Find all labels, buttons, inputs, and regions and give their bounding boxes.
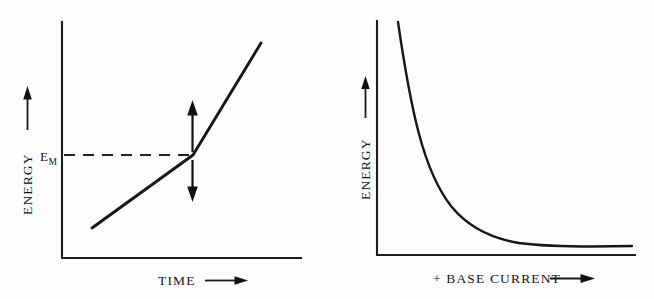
x-axis-title-base-current: + BASE CURRENT [433, 271, 561, 286]
data-curve-energy-decay [398, 22, 632, 247]
x-axis-title-arrow-head [581, 274, 596, 283]
y-axis-title-energy: ENERGY [358, 138, 373, 200]
y-axis-title-arrow-head [361, 76, 369, 89]
up-spread-arrow-head [187, 100, 198, 116]
energy-vs-time-plot: E M ENERGY TIME [0, 0, 327, 299]
y-axis-title-arrow-up-icon [23, 86, 32, 130]
data-line-energy [92, 43, 261, 228]
y-tick-label-em-subscript: M [49, 157, 58, 167]
x-axis-title-arrow-right-icon [205, 276, 248, 285]
up-spread-arrow [187, 100, 198, 152]
y-axis-title-arrow-head [23, 86, 32, 100]
x-axis-title-time: TIME [158, 273, 196, 288]
chart-panel-energy-vs-base-current: ENERGY + BASE CURRENT [327, 0, 654, 299]
energy-vs-base-current-plot: ENERGY + BASE CURRENT [327, 0, 654, 299]
down-spread-arrow-head [187, 187, 198, 203]
y-tick-label-em-base: E [40, 149, 48, 164]
figure-root: E M ENERGY TIME [0, 0, 654, 299]
down-spread-arrow [187, 160, 198, 202]
y-axis-title-energy: ENERGY [20, 153, 35, 215]
x-axis-title-arrow-head [235, 276, 249, 285]
chart-panel-energy-vs-time: E M ENERGY TIME [0, 0, 327, 299]
y-axis-title-arrow-up-icon [361, 76, 369, 118]
